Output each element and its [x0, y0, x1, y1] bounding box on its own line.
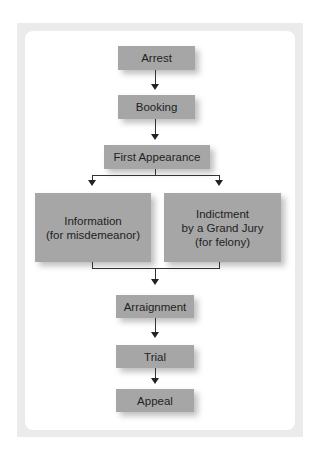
connector-merge-horizontal	[92, 268, 220, 269]
node-indictment: Indictment by a Grand Jury (for felony)	[164, 193, 281, 262]
connector-branch-horizontal	[92, 175, 220, 176]
node-arrest: Arrest	[118, 46, 195, 70]
arrow-down-icon	[151, 332, 159, 338]
node-booking: Booking	[118, 95, 195, 119]
node-first-appearance: First Appearance	[104, 145, 210, 169]
arrow-down-icon	[151, 279, 159, 285]
node-trial: Trial	[116, 345, 194, 368]
arrow-down-icon	[151, 134, 159, 140]
node-information: Information (for misdemeanor)	[35, 193, 151, 262]
arrow-down-icon	[151, 378, 159, 384]
arrow-down-icon	[151, 84, 159, 90]
arrow-down-icon	[215, 180, 223, 186]
node-arraignment: Arraignment	[116, 295, 194, 318]
arrow-down-icon	[88, 180, 96, 186]
node-appeal: Appeal	[116, 389, 194, 412]
